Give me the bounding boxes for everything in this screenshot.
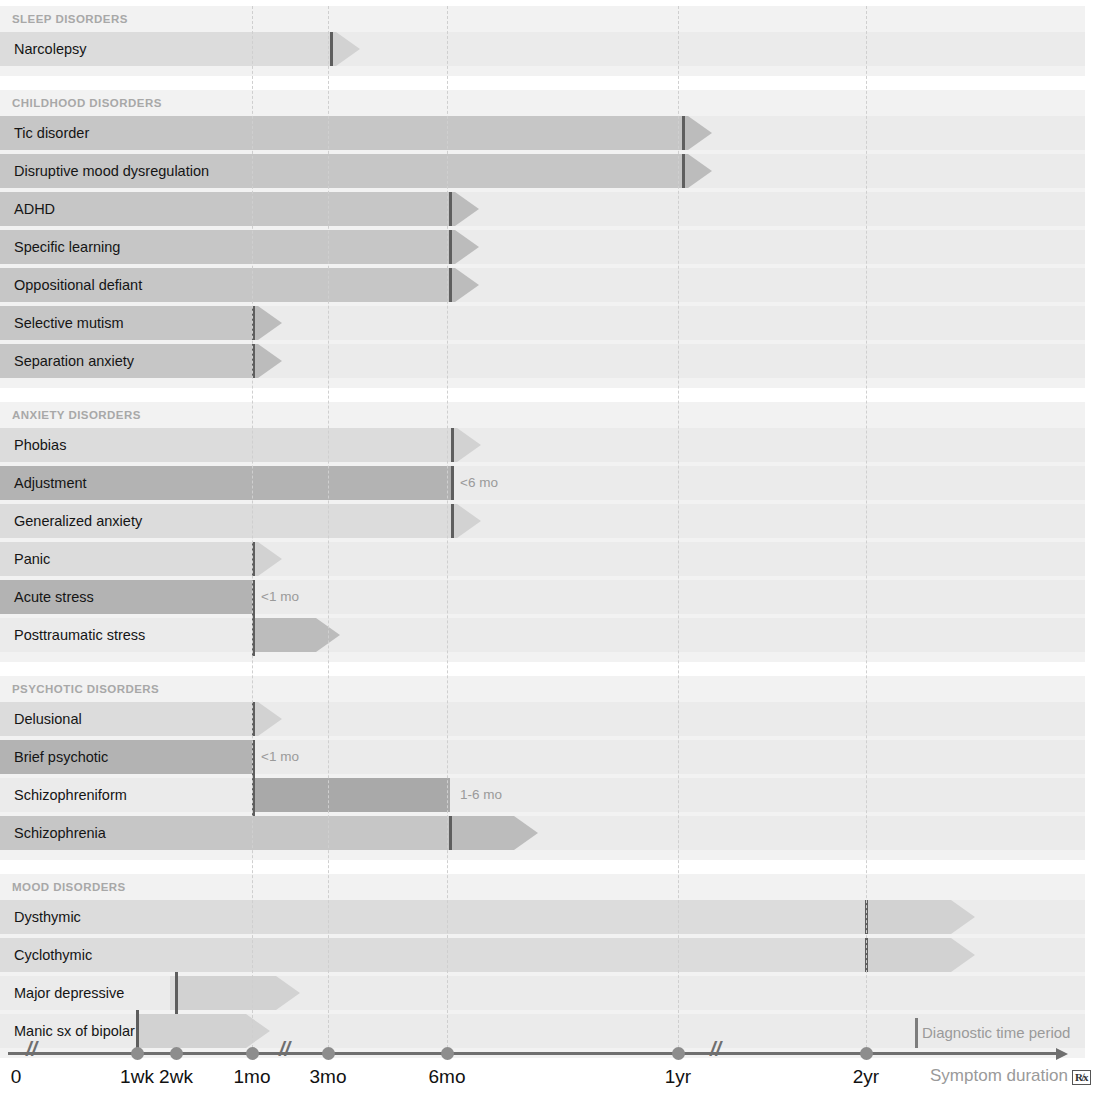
row-label: Phobias: [14, 428, 66, 462]
bar-arrowhead: [258, 306, 282, 340]
bar-extension: [176, 976, 276, 1010]
chart-row: Dysthymic: [0, 900, 1085, 934]
row-label: ADHD: [14, 192, 55, 226]
bar-arrowhead: [951, 938, 975, 972]
section-title: SLEEP DISORDERS: [12, 13, 128, 25]
bar-arrowhead: [455, 230, 479, 264]
diagnostic-marker: [451, 466, 454, 500]
gridline: [678, 6, 680, 1048]
chart-row: Delusional: [0, 702, 1085, 736]
bar-arrowhead: [455, 192, 479, 226]
diagnostic-marker: [449, 816, 452, 850]
row-label: Schizophrenia: [14, 816, 106, 850]
diagnostic-marker: [330, 32, 333, 66]
bar-arrowhead: [276, 976, 300, 1010]
chart-row: Brief psychotic<1 mo: [0, 740, 1085, 774]
chart-row: Generalized anxiety: [0, 504, 1085, 538]
axis-arrow-icon: [1056, 1048, 1068, 1060]
row-label: Posttraumatic stress: [14, 618, 145, 652]
row-annotation: 1-6 mo: [460, 778, 502, 812]
bar-arrowhead: [457, 428, 481, 462]
axis-tick-label: 6mo: [429, 1066, 466, 1088]
row-label: Selective mutism: [14, 306, 124, 340]
legend-marker-swatch: [915, 1018, 918, 1048]
axis-tick-dot: [322, 1047, 335, 1060]
row-annotation: <6 mo: [460, 466, 498, 500]
chart-row: Schizophreniform1-6 mo: [0, 778, 1085, 812]
chart-row: Tic disorder: [0, 116, 1085, 150]
axis-tick-label: 2wk: [159, 1066, 193, 1088]
chart-row: Acute stress<1 mo: [0, 580, 1085, 614]
gridline: [866, 6, 868, 1048]
row-label: Oppositional defiant: [14, 268, 142, 302]
row-label: Manic sx of bipolar: [14, 1014, 135, 1048]
bar-arrowhead: [455, 268, 479, 302]
chart-row: Panic: [0, 542, 1085, 576]
axis-tick-label: 1yr: [665, 1066, 691, 1088]
diagnostic-marker: [449, 192, 452, 226]
row-label: Cyclothymic: [14, 938, 92, 972]
chart-row: Oppositional defiant: [0, 268, 1085, 302]
bar-arrowhead: [336, 32, 360, 66]
bar-extension: [866, 938, 951, 972]
symptom-duration-chart: SLEEP DISORDERSNarcolepsyCHILDHOOD DISOR…: [0, 0, 1096, 1108]
axis-tick-label: 3mo: [310, 1066, 347, 1088]
section-title: CHILDHOOD DISORDERS: [12, 97, 162, 109]
row-label: Specific learning: [14, 230, 120, 264]
axis-tick-label: 0: [11, 1066, 22, 1088]
axis-tick-label: 1mo: [234, 1066, 271, 1088]
row-label: Tic disorder: [14, 116, 89, 150]
axis-tick-label: 2yr: [853, 1066, 879, 1088]
bar-extension: [253, 618, 316, 652]
row-band: [0, 976, 1085, 1010]
bar-body: [0, 900, 866, 934]
rx-logo-icon: R̸x: [1072, 1070, 1091, 1085]
bar-extension: [253, 778, 450, 812]
bar-arrowhead: [951, 900, 975, 934]
bar-body: [0, 938, 866, 972]
row-label: Narcolepsy: [14, 32, 87, 66]
row-label: Adjustment: [14, 466, 87, 500]
gridline: [328, 6, 330, 1048]
row-annotation: <1 mo: [261, 740, 299, 774]
legend-diagnostic-label: Diagnostic time period: [922, 1024, 1070, 1041]
axis-tick-dot: [441, 1047, 454, 1060]
row-annotation: <1 mo: [261, 580, 299, 614]
chart-row: Narcolepsy: [0, 32, 1085, 66]
diagnostic-marker: [136, 1010, 139, 1052]
row-label: Delusional: [14, 702, 82, 736]
axis-line: [8, 1052, 1058, 1055]
bar-arrowhead: [258, 702, 282, 736]
chart-row: Selective mutism: [0, 306, 1085, 340]
diagnostic-marker: [682, 154, 685, 188]
chart-row: Disruptive mood dysregulation: [0, 154, 1085, 188]
row-label: Dysthymic: [14, 900, 81, 934]
row-band: [0, 618, 1085, 652]
bar-body: [0, 192, 450, 226]
axis-label: Symptom duration: [930, 1066, 1068, 1086]
row-label: Acute stress: [14, 580, 94, 614]
bar-arrowhead: [258, 542, 282, 576]
axis-tick-dot: [672, 1047, 685, 1060]
chart-row: Major depressive: [0, 976, 1085, 1010]
chart-row: Phobias: [0, 428, 1085, 462]
row-label: Generalized anxiety: [14, 504, 142, 538]
gridline: [447, 6, 449, 1048]
axis-tick-label: 1wk: [120, 1066, 154, 1088]
bar-extension: [137, 1014, 246, 1048]
chart-row: ADHD: [0, 192, 1085, 226]
chart-row: Adjustment<6 mo: [0, 466, 1085, 500]
bar-arrowhead: [457, 504, 481, 538]
row-label: Brief psychotic: [14, 740, 108, 774]
gridline: [252, 6, 254, 1048]
chart-row: Schizophrenia: [0, 816, 1085, 850]
row-band: [0, 778, 1085, 812]
axis-tick-dot: [131, 1047, 144, 1060]
axis-break-icon: //: [710, 1039, 721, 1059]
bar-extension: [866, 900, 951, 934]
section-title: ANXIETY DISORDERS: [12, 409, 141, 421]
bar-extension: [450, 816, 514, 850]
chart-row: Posttraumatic stress: [0, 618, 1085, 652]
bar-arrowhead: [514, 816, 538, 850]
bar-arrowhead: [688, 154, 712, 188]
